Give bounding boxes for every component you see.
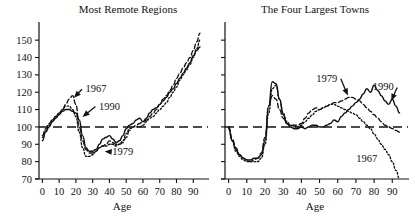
- y-tick-label: 150: [16, 35, 32, 46]
- x-tick-label: 50: [314, 186, 325, 197]
- two-panel-line-chart: Most Remote Regions708090100110120130140…: [0, 0, 415, 224]
- x-axis-title: Age: [306, 200, 324, 212]
- series-line-1967: [42, 33, 200, 153]
- series-line-1990: [42, 47, 200, 151]
- x-tick-label: 90: [188, 186, 199, 197]
- series-line-1990: [229, 82, 400, 160]
- y-tick-label: 110: [17, 104, 32, 115]
- series-annotation-label-1990: 1990: [99, 101, 120, 112]
- x-tick-label: 80: [171, 186, 182, 197]
- y-tick-label: 120: [16, 87, 32, 98]
- x-tick-label: 80: [369, 186, 380, 197]
- panel-most-remote-regions: Most Remote Regions708090100110120130140…: [16, 3, 209, 212]
- y-tick-label: 100: [16, 122, 32, 133]
- x-tick-label: 30: [278, 186, 289, 197]
- x-tick-label: 90: [387, 186, 398, 197]
- x-tick-label: 10: [54, 186, 65, 197]
- series-annotation-label-1990: 1990: [373, 81, 394, 92]
- series-annotation-label-1967: 1967: [86, 83, 107, 94]
- x-tick-label: 10: [242, 186, 253, 197]
- panel-title-1: The Four Largest Towns: [261, 3, 369, 15]
- x-tick-label: 20: [71, 186, 82, 197]
- x-tick-label: 70: [154, 186, 165, 197]
- x-axis-title: Age: [113, 200, 131, 212]
- x-tick-label: 60: [332, 186, 343, 197]
- x-tick-label: 40: [104, 186, 115, 197]
- series-annotation-label-1979: 1979: [112, 146, 133, 157]
- x-tick-label: 30: [87, 186, 98, 197]
- series-annotation-label-1979: 1979: [316, 73, 337, 84]
- annotation-arrow-1990: [391, 93, 396, 101]
- y-tick-label: 140: [16, 52, 32, 63]
- y-tick-label: 130: [16, 69, 32, 80]
- x-tick-label: 40: [296, 186, 307, 197]
- panel-title-0: Most Remote Regions: [79, 3, 177, 15]
- x-tick-label: 50: [121, 186, 132, 197]
- series-annotation-label-1967: 1967: [356, 153, 377, 164]
- x-tick-label: 0: [40, 186, 45, 197]
- x-tick-label: 70: [351, 186, 362, 197]
- y-tick-label: 70: [22, 174, 33, 185]
- annotation-arrow-1979: [105, 149, 112, 155]
- y-tick-label: 90: [22, 139, 33, 150]
- x-tick-label: 60: [138, 186, 149, 197]
- y-tick-label: 80: [22, 156, 33, 167]
- figure-root: Most Remote Regions708090100110120130140…: [0, 0, 415, 224]
- annotation-arrow-1979: [342, 88, 347, 96]
- series-line-1967: [229, 85, 400, 179]
- x-tick-label: 0: [226, 186, 231, 197]
- x-tick-label: 20: [260, 186, 271, 197]
- panel-four-largest-towns: The Four Largest Towns010203040506070809…: [221, 3, 409, 212]
